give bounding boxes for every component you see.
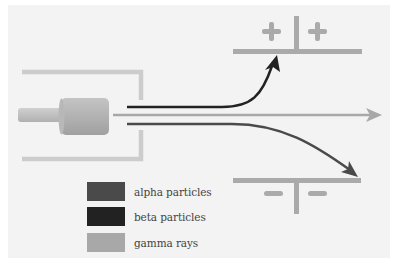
legend-label: alpha particles bbox=[134, 186, 212, 198]
positive-plate bbox=[233, 16, 362, 54]
radiation-source bbox=[18, 98, 109, 135]
plus-sign-icon bbox=[308, 22, 327, 41]
plus-sign-icon bbox=[262, 22, 281, 41]
alpha-particle-path bbox=[127, 124, 358, 177]
gamma-swatch bbox=[87, 233, 125, 252]
legend-label: gamma rays bbox=[134, 237, 198, 249]
radiation-deflection-diagram bbox=[0, 0, 397, 268]
gamma-ray-path bbox=[113, 108, 382, 122]
beta-particle-path bbox=[127, 55, 280, 107]
beta-swatch bbox=[87, 207, 125, 226]
negative-plate bbox=[233, 178, 361, 214]
minus-sign-icon bbox=[308, 191, 327, 196]
legend-item-beta: beta particles bbox=[87, 207, 206, 226]
legend-item-gamma: gamma rays bbox=[87, 233, 198, 252]
alpha-swatch bbox=[87, 182, 125, 201]
legend-item-alpha: alpha particles bbox=[87, 182, 212, 201]
minus-sign-icon bbox=[264, 191, 283, 196]
legend-label: beta particles bbox=[134, 211, 206, 223]
